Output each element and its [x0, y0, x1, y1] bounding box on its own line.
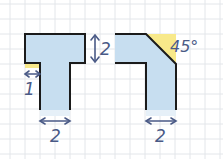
angle-label: 45° [170, 37, 198, 56]
t-stem-fade [40, 110, 70, 116]
t-shape [25, 34, 85, 116]
corner-shape [115, 34, 176, 116]
leg-width-arrow-icon [146, 118, 176, 124]
overhang-arrow-icon [25, 71, 40, 77]
top-bar-height-label: 2 [100, 39, 111, 59]
stem-width-label: 2 [50, 126, 61, 146]
overhang-width-label: 1 [24, 79, 35, 99]
leg-width-label: 2 [155, 126, 166, 146]
corner-leg-fade [146, 110, 176, 116]
diagram-canvas: 2 1 2 45° 2 [0, 0, 223, 159]
